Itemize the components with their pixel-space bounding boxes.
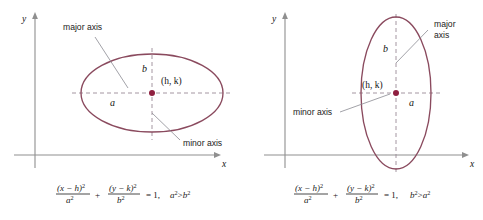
eq-left-plus: + <box>95 190 100 200</box>
eq-right-num2-exp: 2 <box>372 182 375 189</box>
svg-text:a2: a2 <box>304 194 312 205</box>
eq-left-den1-exp: 2 <box>71 194 74 201</box>
svg-text:a2: a2 <box>66 194 74 205</box>
eq-left-num2: (y − k) <box>109 183 134 193</box>
leader-minor-axis-right <box>340 94 390 112</box>
eq-right-equals: = 1, <box>384 190 398 200</box>
equation-left: (x − h)2 a2 + (y − k)2 b2 = 1, a2>b2 <box>56 182 190 205</box>
x-axis-right <box>264 152 469 158</box>
eq-left-den2-exp: 2 <box>122 194 125 201</box>
eq-right-num2: (y − k) <box>347 183 372 193</box>
center-label-left: (h, k) <box>161 76 182 87</box>
svg-text:b2: b2 <box>355 194 363 205</box>
minor-axis-annotation-right: minor axis <box>293 107 332 117</box>
major-axis-annotation-right-line2: axis <box>434 30 449 40</box>
eq-right-den2-exp: 2 <box>360 194 363 201</box>
eq-left-num1: (x − h) <box>57 183 82 193</box>
eq-left-equals: = 1, <box>146 190 160 200</box>
svg-text:b2: b2 <box>117 194 125 205</box>
eq-right-num1: (x − h) <box>295 183 320 193</box>
svg-text:a2>b2: a2>b2 <box>170 189 190 200</box>
major-axis-annotation-left: major axis <box>63 22 102 32</box>
y-axis-right <box>282 12 288 168</box>
svg-text:(x − h)2: (x − h)2 <box>57 182 85 193</box>
center-point-left <box>149 90 155 96</box>
y-axis-label-right: y <box>271 14 277 24</box>
x-axis-label-left: x <box>221 159 227 169</box>
eq-right-cond-a-exp: 2 <box>427 189 430 196</box>
x-axis-label-right: x <box>469 159 475 169</box>
center-point-right <box>393 90 399 96</box>
semi-axis-b-label-left: b <box>142 63 147 74</box>
y-axis-left <box>32 12 38 168</box>
eq-left-num1-exp: 2 <box>82 182 85 189</box>
semi-axis-b-label-right: b <box>383 43 388 54</box>
semi-axis-a-label-right: a <box>409 97 414 108</box>
svg-text:(x − h)2: (x − h)2 <box>295 182 323 193</box>
eq-left-num2-exp: 2 <box>134 182 137 189</box>
svg-text:(y − k)2: (y − k)2 <box>347 182 375 193</box>
minor-axis-annotation-left: minor axis <box>183 138 222 148</box>
ellipse-figure: y x a b (h, k) major axis minor axis y x… <box>0 0 483 220</box>
eq-left-cond-b-exp: 2 <box>187 189 190 196</box>
x-axis-left <box>14 152 221 158</box>
svg-text:b2>a2: b2>a2 <box>410 189 430 200</box>
semi-axis-a-label-left: a <box>110 97 115 108</box>
leader-minor-axis-left <box>152 113 180 140</box>
y-axis-label-left: y <box>21 14 27 24</box>
equation-right: (x − h)2 a2 + (y − k)2 b2 = 1, b2>a2 <box>294 182 430 205</box>
eq-right-plus: + <box>333 190 338 200</box>
svg-text:(y − k)2: (y − k)2 <box>109 182 137 193</box>
eq-right-den1-exp: 2 <box>309 194 312 201</box>
center-label-right: (h, k) <box>362 80 383 91</box>
eq-right-num1-exp: 2 <box>320 182 323 189</box>
leader-major-axis-left <box>95 37 128 88</box>
major-axis-annotation-right: major <box>434 19 456 29</box>
